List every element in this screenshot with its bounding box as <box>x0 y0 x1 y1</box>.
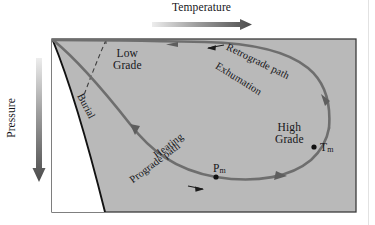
t-max-subscript: m <box>327 145 333 154</box>
p-max-subscript: m <box>220 166 226 175</box>
temperature-axis-title: Temperature <box>172 2 231 14</box>
pressure-axis-arrow <box>33 58 46 182</box>
pressure-axis-title: Pressure <box>6 98 18 138</box>
diagram-canvas: Temperature Pressure Low Grade High Grad… <box>0 0 375 225</box>
t-max-point <box>311 144 316 149</box>
temperature-axis-arrow <box>152 19 252 30</box>
t-max-label: Tm <box>320 142 333 155</box>
low-grade-line2: Grade <box>113 60 142 72</box>
pt-path-diagram <box>0 0 375 225</box>
high-grade-line2: Grade <box>275 134 304 146</box>
high-grade-label: High Grade <box>275 122 304 146</box>
p-max-label: Pm <box>213 163 226 176</box>
low-grade-label: Low Grade <box>113 48 142 72</box>
